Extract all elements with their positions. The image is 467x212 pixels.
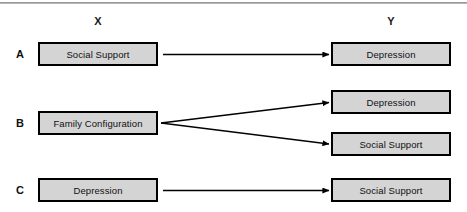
node-box-b-outcome-1: Depression xyxy=(331,90,451,114)
arrow-b-family-configuration-to-social-support xyxy=(161,123,329,144)
node-box-b-outcome-2: Social Support xyxy=(331,132,451,156)
node-box-a-outcome: Depression xyxy=(331,42,451,66)
top-divider-rule xyxy=(0,2,467,4)
arrow-b-family-configuration-to-depression xyxy=(161,103,329,124)
figure-canvas: X Y A B C Social Support Depression Fami… xyxy=(0,0,467,212)
row-label-a: A xyxy=(16,48,32,60)
node-box-b-predictor: Family Configuration xyxy=(38,111,158,135)
node-box-c-outcome: Social Support xyxy=(331,178,451,202)
column-header-y: Y xyxy=(361,15,421,27)
node-box-a-predictor: Social Support xyxy=(38,42,158,66)
column-header-x: X xyxy=(68,15,128,27)
row-label-c: C xyxy=(16,184,32,196)
node-box-c-predictor: Depression xyxy=(38,178,158,202)
row-label-b: B xyxy=(16,117,32,129)
